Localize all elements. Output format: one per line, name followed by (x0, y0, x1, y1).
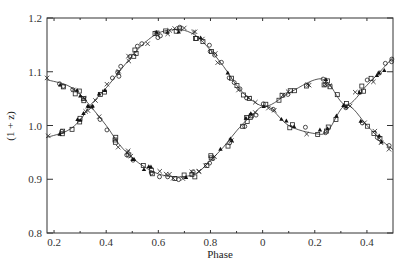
marker-cross (253, 110, 257, 114)
plot-frame (47, 18, 393, 233)
marker-circle (365, 78, 369, 82)
marker-cross (236, 88, 240, 92)
marker-triangle (177, 30, 181, 34)
y-tick-label: 1.0 (28, 120, 42, 132)
marker-cross (182, 26, 186, 30)
x-tick-label: 0.4 (99, 236, 113, 248)
plot-border (47, 18, 393, 233)
x-tick-label: 0.2 (47, 236, 61, 248)
marker-square (73, 92, 77, 96)
marker-cross (105, 82, 109, 86)
marker-circle (303, 125, 307, 129)
data-points (45, 25, 394, 181)
y-axis-label: (1 + z) (4, 111, 17, 141)
marker-circle (119, 64, 123, 68)
marker-circle (117, 74, 121, 78)
y-tick-label: 0.9 (28, 173, 42, 185)
marker-circle (105, 128, 109, 132)
marker-cross (97, 114, 101, 118)
marker-triangle (318, 128, 322, 132)
x-axis-label: Phase (207, 248, 233, 260)
x-tick-label: 0.4 (360, 236, 374, 248)
marker-cross (197, 169, 201, 173)
marker-cross (253, 100, 257, 104)
fit-curves (47, 29, 393, 176)
marker-triangle (75, 88, 79, 92)
y-tick-label: 1.1 (28, 66, 42, 78)
marker-triangle (284, 119, 288, 123)
x-tick-label: 0.2 (308, 236, 322, 248)
y-tick-label: 0.8 (28, 227, 42, 239)
marker-cross (158, 169, 162, 173)
x-tick-label: 0.6 (151, 236, 165, 248)
marker-circle (157, 175, 161, 179)
marker-cross (145, 42, 149, 46)
marker-circle (207, 43, 211, 47)
marker-cross (116, 145, 120, 149)
marker-triangle (226, 71, 230, 75)
marker-circle (383, 61, 387, 65)
x-tick-label: 0 (260, 236, 266, 248)
y-axis-ticks: 0.80.91.01.11.2 (28, 12, 393, 239)
marker-triangle (75, 117, 79, 121)
marker-circle (135, 44, 139, 48)
marker-cross (353, 90, 357, 94)
x-tick-label: 0.8 (204, 236, 218, 248)
marker-square (360, 84, 364, 88)
marker-square (193, 175, 197, 179)
marker-triangle (249, 111, 253, 115)
marker-triangle (292, 124, 296, 128)
radial-velocity-chart: 0.80.91.01.11.2 0.20.40.60.800.20.4 Phas… (0, 0, 403, 271)
y-tick-label: 1.2 (28, 12, 42, 24)
